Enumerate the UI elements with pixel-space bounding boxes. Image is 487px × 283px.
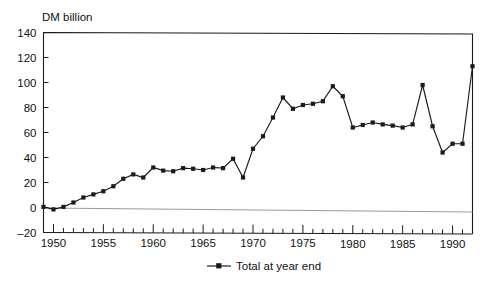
data-point-marker — [321, 99, 325, 103]
x-tick-label: 1975 — [290, 237, 316, 249]
data-point-marker — [181, 166, 185, 170]
x-tick-label: 1985 — [390, 238, 416, 250]
data-point-marker — [141, 175, 145, 179]
data-point-marker — [450, 142, 454, 146]
line-chart: DM billion –20020406080100120140 1950195… — [0, 0, 487, 283]
y-tick-label: 120 — [17, 52, 36, 64]
data-point-marker — [81, 195, 85, 199]
y-tick-label: –20 — [17, 227, 36, 239]
data-point-marker — [430, 124, 434, 128]
y-tick-label: 20 — [24, 177, 37, 189]
legend-marker-swatch — [216, 263, 221, 268]
data-point-marker — [201, 168, 205, 172]
data-point-marker — [161, 169, 165, 173]
y-axis-title: DM billion — [42, 11, 93, 23]
legend-label: Total at year end — [236, 260, 321, 272]
data-point-marker — [440, 150, 444, 154]
data-point-marker — [131, 172, 135, 176]
data-point-marker — [101, 189, 105, 193]
data-point-marker — [41, 205, 45, 209]
y-tick-label: 140 — [17, 27, 36, 39]
data-point-marker — [311, 102, 315, 106]
y-tick-label: 100 — [17, 77, 36, 89]
y-tick-label: 60 — [24, 127, 37, 139]
data-point-marker — [231, 157, 235, 161]
x-axis-tick-labels: 195019551960196519701975198019851990 — [41, 237, 466, 250]
data-point-marker — [251, 147, 255, 151]
data-point-marker — [171, 169, 175, 173]
data-point-marker — [371, 120, 375, 124]
data-point-marker — [261, 134, 265, 138]
data-point-marker — [191, 167, 195, 171]
x-tick-label: 1980 — [340, 238, 366, 250]
data-point-marker — [61, 205, 65, 209]
data-point-marker — [91, 192, 95, 196]
x-tick-label: 1955 — [91, 237, 117, 249]
data-point-marker — [331, 84, 335, 88]
data-point-marker — [211, 165, 215, 169]
data-point-marker — [381, 122, 385, 126]
x-tick-label: 1990 — [440, 238, 466, 250]
x-tick-label: 1950 — [41, 237, 67, 249]
x-tick-label: 1965 — [190, 237, 216, 249]
y-tick-label: 80 — [24, 102, 37, 114]
data-point-marker — [421, 83, 425, 87]
data-point-marker — [71, 200, 75, 204]
data-point-marker — [411, 122, 415, 126]
data-point-marker — [361, 123, 365, 127]
data-point-marker — [341, 94, 345, 98]
data-point-marker — [121, 177, 125, 181]
data-point-marker — [470, 64, 474, 68]
data-point-marker — [51, 207, 55, 211]
data-point-marker — [460, 142, 464, 146]
data-point-marker — [241, 175, 245, 179]
data-point-marker — [291, 107, 295, 111]
x-tick-label: 1960 — [140, 237, 166, 249]
y-tick-label: 40 — [24, 152, 37, 164]
x-tick-label: 1970 — [240, 237, 266, 249]
data-point-marker — [351, 125, 355, 129]
data-point-marker — [281, 95, 285, 99]
chart-container: DM billion –20020406080100120140 1950195… — [0, 0, 487, 283]
data-point-marker — [271, 115, 275, 119]
data-point-marker — [401, 125, 405, 129]
y-tick-label: 0 — [30, 202, 36, 214]
data-point-marker — [151, 165, 155, 169]
data-point-marker — [301, 103, 305, 107]
data-point-marker — [221, 166, 225, 170]
data-point-marker — [391, 124, 395, 128]
data-point-marker — [111, 184, 115, 188]
